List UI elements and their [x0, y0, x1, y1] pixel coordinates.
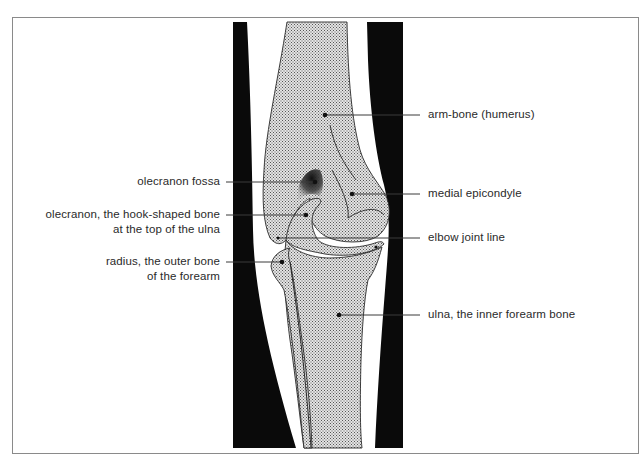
label-olecranon: olecranon, the hook-shaped bone at the t… — [46, 207, 220, 237]
label-olecranon-fossa-line1: olecranon fossa — [137, 174, 220, 189]
label-elbow-joint-line: elbow joint line — [428, 230, 505, 245]
label-radius-line2: of the forearm — [106, 269, 220, 284]
label-radius: radius, the outer bone of the forearm — [106, 254, 220, 284]
pointer-dot-olecranon — [304, 213, 309, 218]
label-medial-epicondyle-line1: medial epicondyle — [428, 186, 522, 201]
label-ulna-line1: ulna, the inner forearm bone — [428, 307, 575, 322]
label-olecranon-fossa: olecranon fossa — [137, 174, 220, 189]
pointer-dot-elbow-joint-right — [374, 245, 377, 248]
pointer-dot-radius — [280, 260, 285, 265]
label-ulna: ulna, the inner forearm bone — [428, 307, 575, 322]
label-humerus: arm-bone (humerus) — [428, 107, 535, 122]
pointer-dot-elbow-joint-left — [277, 237, 280, 240]
pointer-dot-olecranon-fossa — [313, 180, 318, 185]
label-elbow-joint-line-line1: elbow joint line — [428, 230, 505, 245]
label-radius-line1: radius, the outer bone — [106, 254, 220, 269]
label-olecranon-line2: at the top of the ulna — [46, 222, 220, 237]
pointer-dot-ulna — [337, 313, 342, 318]
label-olecranon-line1: olecranon, the hook-shaped bone — [46, 207, 220, 222]
pointer-dot-humerus — [323, 113, 328, 118]
label-medial-epicondyle: medial epicondyle — [428, 186, 522, 201]
pointer-dot-medial-epicondyle — [350, 192, 355, 197]
label-humerus-line1: arm-bone (humerus) — [428, 107, 535, 122]
